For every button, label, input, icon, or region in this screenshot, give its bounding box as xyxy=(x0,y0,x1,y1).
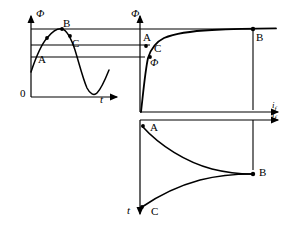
point-label-left-c: C xyxy=(72,38,79,49)
panel-current-vs-time xyxy=(140,120,278,214)
point-label-left-a: A xyxy=(38,54,46,65)
origin-label: 0 xyxy=(20,88,26,99)
point-label-right-a: A xyxy=(143,32,151,43)
flux-inner-label-right: Φ xyxy=(150,57,158,68)
point-label-lower-c: C xyxy=(151,206,158,217)
current-branch-a-to-b xyxy=(142,126,252,174)
flux-axis-label-left: Φ xyxy=(36,8,44,19)
current-branch-c-to-b xyxy=(142,174,252,207)
point-label-right-b: B xyxy=(256,32,263,43)
point-label-right-c: C xyxy=(154,43,161,54)
point-label-lower-b: B xyxy=(259,167,266,178)
time-axis-label-bottom: t xyxy=(127,205,130,216)
point-marker-lower-c xyxy=(140,205,144,209)
magnetization-construction-figure: Φ B C A 0 t Φ A C Φ B if if A B C t xyxy=(0,0,292,231)
point-marker-lower-a xyxy=(141,124,145,128)
point-marker-right-a xyxy=(144,44,148,48)
point-marker-lower-b xyxy=(251,172,255,176)
flux-axis-label-right: Φ xyxy=(131,8,139,19)
current-axis-label-bottom: if xyxy=(272,110,276,122)
point-marker-right-b xyxy=(251,27,255,31)
point-marker-left-a xyxy=(45,36,49,40)
point-label-left-b: B xyxy=(63,18,70,29)
time-axis-label-left: t xyxy=(100,94,103,105)
point-label-lower-a: A xyxy=(150,122,158,133)
